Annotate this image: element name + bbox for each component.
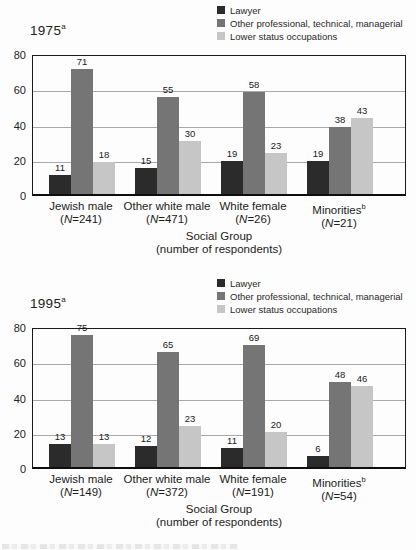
bar-value-label: 55 [155, 84, 181, 95]
legend-swatch-lower_status [217, 305, 225, 313]
bar-other_professional [329, 382, 351, 467]
x-axis-labels: Jewish male(N=149)Other white male(N=372… [32, 473, 406, 501]
bar-lower_status [265, 153, 287, 194]
legend: LawyerOther professional, technical, man… [217, 5, 403, 44]
chart-title-1975: 1975a [30, 22, 66, 38]
bar-value-label: 75 [69, 322, 95, 333]
category-label: Minoritiesb(N=21) [279, 200, 399, 230]
bar-value-label: 58 [241, 79, 267, 90]
legend-swatch-other_professional [217, 19, 225, 27]
bar-value-label: 23 [263, 140, 289, 151]
chart-title-1995: 1995a [30, 295, 66, 311]
bar-other_professional [71, 69, 93, 194]
bar-value-label: 6 [305, 443, 331, 454]
y-tick-label: 60 [0, 84, 26, 96]
plot-area: 117118155530195823193843 [32, 55, 406, 196]
category-n-count: (N=21) [279, 217, 399, 230]
bar-value-label: 71 [69, 56, 95, 67]
legend-label: Lawyer [230, 278, 261, 289]
bar-value-label: 12 [133, 433, 159, 444]
bar-value-label: 69 [241, 332, 267, 343]
y-tick-label: 80 [0, 49, 26, 61]
legend-swatch-lower_status [217, 32, 225, 40]
bar-group: 195823 [221, 56, 287, 194]
bar-value-label: 46 [349, 373, 375, 384]
bar-group: 155530 [135, 56, 201, 194]
bar-other_professional [243, 92, 265, 194]
bar-group: 117118 [49, 56, 115, 194]
bar-group: 137513 [49, 329, 115, 467]
category-label: Minoritiesb(N=54) [279, 473, 399, 503]
bar-value-label: 30 [177, 128, 203, 139]
bar-value-label: 43 [349, 105, 375, 116]
bar-lower_status [265, 432, 287, 467]
bar-value-label: 13 [47, 431, 73, 442]
x-axis-title-line1: Social Group [32, 503, 406, 516]
legend-item: Lower status occupations [217, 304, 403, 314]
category-n-count: (N=54) [279, 490, 399, 503]
bar-group: 193843 [307, 56, 373, 194]
bar-value-label: 11 [219, 435, 245, 446]
bar-lawyer [135, 168, 157, 194]
x-axis-title-line2: (number of respondents) [32, 243, 406, 256]
bar-other_professional [71, 335, 93, 467]
bar-other_professional [157, 97, 179, 194]
bar-other_professional [157, 352, 179, 467]
title-superscript: a [61, 22, 66, 31]
y-tick-label: 20 [0, 155, 26, 167]
x-axis-labels: Jewish male(N=241)Other white male(N=471… [32, 200, 406, 228]
plot-area: 13751312652311692064846 [32, 328, 406, 469]
legend-label: Other professional, technical, manageria… [230, 291, 403, 302]
x-axis-title: Social Group (number of respondents) [32, 230, 406, 256]
y-tick-label: 20 [0, 428, 26, 440]
legend-label: Lawyer [230, 5, 261, 16]
y-tick-label: 40 [0, 120, 26, 132]
y-tick-label: 40 [0, 393, 26, 405]
bar-lower_status [351, 386, 373, 467]
legend-item: Other professional, technical, manageria… [217, 18, 403, 28]
x-axis-title: Social Group (number of respondents) [32, 503, 406, 529]
bar-value-label: 20 [263, 419, 289, 430]
bar-other_professional [243, 345, 265, 467]
legend-swatch-lawyer [217, 6, 225, 14]
legend-label: Lower status occupations [230, 31, 337, 42]
category-superscript: b [362, 475, 366, 484]
category-superscript: b [362, 202, 366, 211]
bar-lawyer [221, 161, 243, 194]
bar-lawyer [49, 444, 71, 467]
legend-label: Lower status occupations [230, 304, 337, 315]
bar-lawyer [49, 175, 71, 194]
chart-1995: 1995a LawyerOther professional, technica… [0, 273, 416, 546]
legend-label: Other professional, technical, manageria… [230, 18, 403, 29]
chart-1975: 1975a LawyerOther professional, technica… [0, 0, 416, 273]
bar-value-label: 15 [133, 155, 159, 166]
y-tick-label: 60 [0, 357, 26, 369]
bar-value-label: 65 [155, 339, 181, 350]
legend-swatch-lawyer [217, 279, 225, 287]
bar-value-label: 13 [91, 431, 117, 442]
y-axis: 806040200 [0, 328, 28, 469]
bar-lawyer [307, 456, 329, 467]
y-axis: 806040200 [0, 55, 28, 196]
bar-lawyer [135, 446, 157, 467]
bar-value-label: 23 [177, 413, 203, 424]
legend-item: Lawyer [217, 278, 403, 288]
bar-lower_status [93, 162, 115, 194]
bar-lower_status [179, 141, 201, 194]
bar-value-label: 19 [305, 148, 331, 159]
bar-group: 126523 [135, 329, 201, 467]
bar-value-label: 11 [47, 162, 73, 173]
y-tick-label: 80 [0, 322, 26, 334]
title-superscript: a [61, 295, 66, 304]
bar-lower_status [93, 444, 115, 467]
legend-swatch-other_professional [217, 292, 225, 300]
bar-group: 64846 [307, 329, 373, 467]
bar-other_professional [329, 127, 351, 194]
bar-lower_status [179, 426, 201, 467]
x-axis-title-line2: (number of respondents) [32, 516, 406, 529]
bar-lawyer [221, 448, 243, 467]
legend-item: Lawyer [217, 5, 403, 15]
bar-lawyer [307, 161, 329, 194]
bar-lower_status [351, 118, 373, 194]
bar-group: 116920 [221, 329, 287, 467]
